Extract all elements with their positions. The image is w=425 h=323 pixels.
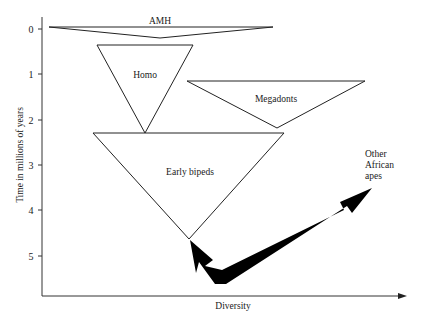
amh-label: AMH: [149, 16, 171, 26]
x-axis-label: Diversity: [215, 301, 251, 311]
megadonts-label: Megadonts: [255, 94, 298, 104]
homo-label: Homo: [133, 70, 157, 80]
other-african-apes-label: Other African apes: [365, 149, 396, 181]
y-tick-4: 4: [29, 205, 34, 216]
early-bipeds-triangle: [93, 133, 284, 239]
phylogeny-diagram: 0 1 2 3 4 5 Time in millions of years Di…: [0, 0, 425, 323]
bent-arrow-icon: [190, 188, 372, 284]
y-tick-0: 0: [29, 24, 34, 35]
y-axis-ticks: [38, 29, 42, 256]
amh-wedge: [49, 27, 273, 38]
y-tick-1: 1: [29, 69, 34, 80]
early-bipeds-label: Early bipeds: [166, 167, 214, 177]
label-line-2: African: [365, 160, 394, 170]
y-tick-2: 2: [29, 115, 34, 126]
y-tick-5: 5: [29, 251, 34, 262]
label-line-1: Other: [365, 149, 387, 159]
y-axis-label: Time in millions of years: [15, 107, 25, 203]
y-tick-3: 3: [29, 160, 34, 171]
megadonts-triangle: [187, 81, 365, 128]
x-axis-arrowhead-icon: [398, 293, 407, 299]
label-line-3: apes: [365, 171, 382, 181]
homo-triangle: [97, 45, 193, 133]
